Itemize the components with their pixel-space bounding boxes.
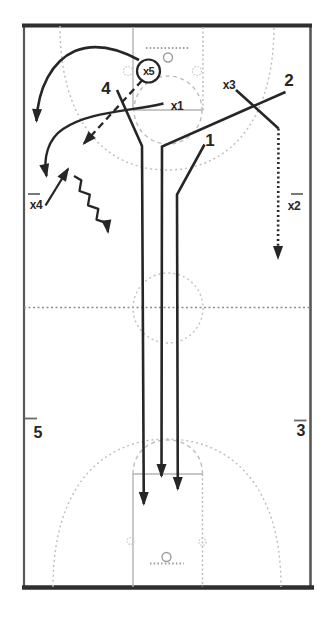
top-left-block-mark <box>124 67 133 76</box>
player1-cut-arrow <box>177 145 205 490</box>
x3-close-out-line <box>236 90 279 129</box>
x1-hook-arrow <box>45 104 163 177</box>
play-diagram: x5 4 x1 x3 2 1 x4 x2 5 3 <box>0 0 334 628</box>
defender-label-x5: x5 <box>143 66 154 77</box>
player-label-4: 4 <box>101 80 110 97</box>
player-label-5: 5 <box>34 425 43 441</box>
player-label-2: 2 <box>284 72 293 89</box>
top-rim <box>164 53 173 62</box>
defender-label-x4: x4 <box>30 199 42 211</box>
x4-cut-arrow <box>46 169 69 206</box>
bottom-rim <box>162 553 171 562</box>
court-lines <box>22 25 314 588</box>
player4-cut-arrow <box>117 90 144 504</box>
play-actions <box>37 47 286 504</box>
top-right-block-mark <box>193 67 202 76</box>
defender-label-x1: x1 <box>171 100 183 112</box>
x2-retreat-dotted-arrow <box>278 129 279 259</box>
defender-label-x3: x3 <box>223 79 235 91</box>
wavy-dribble-arrow <box>74 176 108 232</box>
defender-label-x2: x2 <box>288 200 300 212</box>
player2-cut-arrow <box>162 92 286 476</box>
player-label-1: 1 <box>205 132 214 149</box>
bottom-three-point-arc <box>53 439 281 587</box>
player-label-3: 3 <box>297 423 306 439</box>
court-canvas <box>0 0 334 628</box>
